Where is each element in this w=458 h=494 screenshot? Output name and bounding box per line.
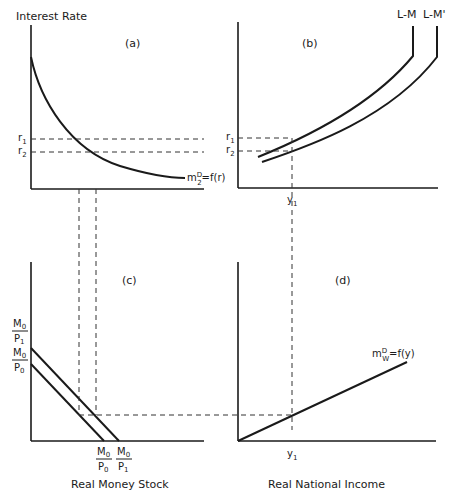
wealth-demand-line <box>238 362 407 441</box>
tick-r2: r2 <box>18 145 27 159</box>
panel-b: (b) r1 r2 y1 L-M L-M' <box>226 8 445 430</box>
svg-text:P0: P0 <box>14 362 25 375</box>
xtick-m0-p0: M0 P0 <box>96 446 112 474</box>
panel-label-a: (a) <box>125 37 140 50</box>
ytick-m0-p1: M0 P1 <box>12 318 28 346</box>
label-lm: L-M <box>397 8 416 21</box>
panel-label-c: (c) <box>122 274 137 287</box>
money-demand-curve <box>31 57 185 178</box>
lm-curve <box>258 26 413 157</box>
svg-text:M0: M0 <box>117 446 130 459</box>
svg-text:M0: M0 <box>13 347 26 360</box>
tick-y1: y1 <box>287 194 297 208</box>
svg-text:M0: M0 <box>97 446 110 459</box>
svg-text:P1: P1 <box>118 461 129 474</box>
panel-c: (c) M0 P1 M0 P0 M0 P0 M0 P1 Real Money S… <box>12 189 292 491</box>
y-axis-label: Interest Rate <box>16 10 87 23</box>
four-panel-diagram: Interest Rate (a) r1 r2 mD2=f(r) (b) r1 … <box>0 0 458 494</box>
panel-a: Interest Rate (a) r1 r2 mD2=f(r) <box>16 10 226 189</box>
panel-d: (d) mDW=f(y) y1 Real National Income <box>238 262 436 491</box>
svg-text:P0: P0 <box>98 461 109 474</box>
panel-label-b: (b) <box>302 37 318 50</box>
panel-label-d: (d) <box>335 274 351 287</box>
tick-r2: r2 <box>226 144 235 158</box>
lm-prime-curve <box>262 26 437 162</box>
tick-y1: y1 <box>287 448 297 462</box>
supply-line-p0 <box>31 364 104 441</box>
x-axis-label: Real National Income <box>268 478 385 491</box>
xtick-m0-p1: M0 P1 <box>116 446 132 474</box>
tick-r1: r1 <box>226 131 235 145</box>
curve-label-a: mD2=f(r) <box>187 171 226 187</box>
tick-r1: r1 <box>18 132 27 146</box>
supply-line-p1 <box>31 348 119 441</box>
label-lm-prime: L-M' <box>423 8 445 21</box>
svg-text:M0: M0 <box>13 318 26 331</box>
curve-label-d: mDW=f(y) <box>372 347 415 363</box>
ytick-m0-p0: M0 P0 <box>12 347 28 375</box>
svg-text:P1: P1 <box>14 333 25 346</box>
x-axis-label: Real Money Stock <box>71 478 169 491</box>
